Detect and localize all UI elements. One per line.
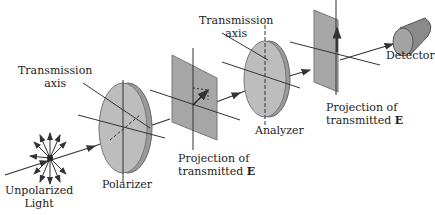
projection-plane-2 [290, 0, 380, 95]
analyzer-disk [222, 25, 300, 125]
analyzer-label: Analyzer [255, 124, 304, 137]
projection-label-2: Projection of transmitted E [326, 101, 403, 127]
polarizer-label: Polarizer [102, 178, 152, 191]
detector-label: Detector [386, 49, 435, 62]
polarization-diagram: Transmissionaxis Transmissionaxis Unpola… [0, 0, 435, 215]
projection-label-1: Projection of transmitted E [178, 152, 255, 178]
transmission-axis-label-1: Transmissionaxis [18, 64, 92, 90]
polarizer-disk [78, 80, 165, 183]
unpolarized-light-label: UnpolarizedLight [5, 184, 73, 210]
transmission-axis-label-2: Transmissionaxis [199, 14, 273, 40]
